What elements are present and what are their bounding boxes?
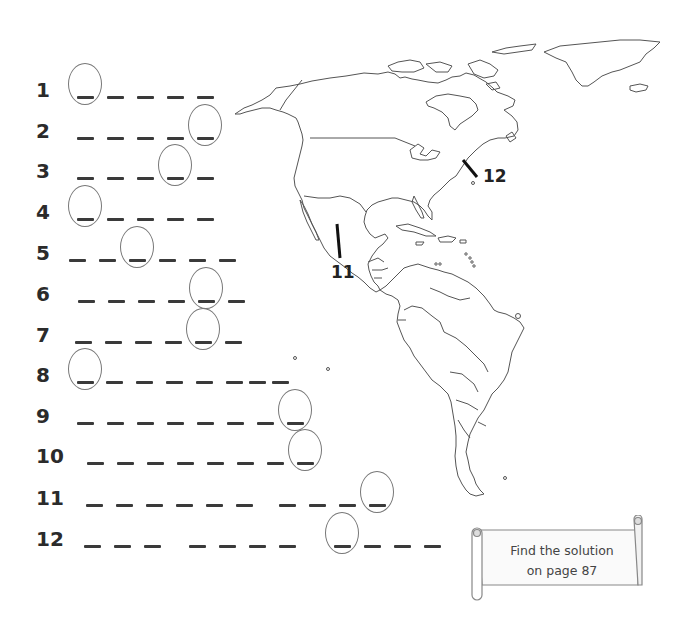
island-dot bbox=[516, 314, 521, 319]
map-label-12: 12 bbox=[483, 166, 507, 186]
letter-blank[interactable] bbox=[267, 462, 284, 465]
letter-blank[interactable] bbox=[137, 218, 154, 221]
letter-blank[interactable] bbox=[339, 504, 356, 507]
letter-blank[interactable] bbox=[177, 462, 194, 465]
highlight-circle bbox=[325, 512, 359, 554]
letter-blank[interactable] bbox=[226, 381, 243, 384]
letter-blank[interactable] bbox=[197, 422, 214, 425]
letter-blank[interactable] bbox=[75, 341, 92, 344]
solution-line-1: Find the solution bbox=[482, 541, 642, 561]
letter-blank[interactable] bbox=[309, 504, 326, 507]
letter-blank[interactable] bbox=[138, 300, 155, 303]
letter-blank[interactable] bbox=[225, 341, 242, 344]
letter-blank[interactable] bbox=[176, 504, 193, 507]
letter-blank[interactable] bbox=[136, 381, 153, 384]
letter-blank[interactable] bbox=[189, 259, 206, 262]
great-lakes bbox=[410, 144, 440, 160]
letter-blank[interactable] bbox=[99, 259, 116, 262]
letter-blank[interactable] bbox=[257, 422, 274, 425]
letter-blank[interactable] bbox=[77, 137, 94, 140]
island-dot bbox=[469, 257, 471, 259]
row-number: 1 bbox=[36, 80, 50, 100]
letter-blank[interactable] bbox=[167, 137, 184, 140]
letter-blank[interactable] bbox=[272, 381, 289, 384]
letter-blank[interactable] bbox=[219, 259, 236, 262]
letter-blank[interactable] bbox=[107, 96, 124, 99]
letter-blank[interactable] bbox=[237, 462, 254, 465]
letter-blank[interactable] bbox=[107, 137, 124, 140]
pointer-line-11 bbox=[337, 224, 340, 258]
letter-blank[interactable] bbox=[227, 422, 244, 425]
letter-blank[interactable] bbox=[84, 545, 101, 548]
letter-blank[interactable] bbox=[147, 462, 164, 465]
letter-blank[interactable] bbox=[77, 422, 94, 425]
letter-blank[interactable] bbox=[424, 545, 441, 548]
letter-blank[interactable] bbox=[228, 300, 245, 303]
highlight-circle bbox=[68, 348, 102, 390]
letter-blank[interactable] bbox=[167, 96, 184, 99]
island-dot bbox=[294, 357, 297, 360]
letter-blank[interactable] bbox=[219, 545, 236, 548]
row-number: 2 bbox=[36, 121, 50, 141]
letter-blank[interactable] bbox=[146, 504, 163, 507]
row-number: 10 bbox=[36, 446, 64, 466]
row-number: 12 bbox=[36, 529, 64, 549]
row-number: 11 bbox=[36, 488, 64, 508]
letter-blank[interactable] bbox=[167, 422, 184, 425]
cuba-outline bbox=[396, 224, 436, 236]
letter-blank[interactable] bbox=[249, 545, 266, 548]
letter-blank[interactable] bbox=[69, 259, 86, 262]
letter-blank[interactable] bbox=[197, 218, 214, 221]
letter-blank[interactable] bbox=[86, 504, 103, 507]
letter-blank[interactable] bbox=[189, 545, 206, 548]
letter-blank[interactable] bbox=[116, 504, 133, 507]
letter-blank[interactable] bbox=[137, 96, 154, 99]
letter-blank[interactable] bbox=[137, 137, 154, 140]
letter-blank[interactable] bbox=[167, 218, 184, 221]
greenland-outline bbox=[544, 40, 660, 86]
highlight-circle bbox=[158, 144, 192, 186]
letter-blank[interactable] bbox=[107, 177, 124, 180]
jamaica-outline bbox=[416, 242, 424, 245]
letter-blank[interactable] bbox=[137, 177, 154, 180]
island-dot bbox=[327, 368, 330, 371]
highlight-circle bbox=[188, 104, 222, 146]
letter-blank[interactable] bbox=[364, 545, 381, 548]
letter-blank[interactable] bbox=[394, 545, 411, 548]
letter-blank[interactable] bbox=[165, 341, 182, 344]
letter-blank[interactable] bbox=[159, 259, 176, 262]
letter-blank[interactable] bbox=[106, 381, 123, 384]
letter-blank[interactable] bbox=[249, 381, 266, 384]
letter-blank[interactable] bbox=[77, 177, 94, 180]
south-america-outline bbox=[380, 264, 524, 496]
letter-blank[interactable] bbox=[114, 545, 131, 548]
letter-blank[interactable] bbox=[236, 504, 253, 507]
island-dot bbox=[439, 263, 441, 265]
letter-blank[interactable] bbox=[207, 462, 224, 465]
row-number: 4 bbox=[36, 202, 50, 222]
highlight-circle bbox=[360, 471, 394, 513]
letter-blank[interactable] bbox=[197, 177, 214, 180]
letter-blank[interactable] bbox=[279, 545, 296, 548]
letter-blank[interactable] bbox=[206, 504, 223, 507]
letter-blank[interactable] bbox=[144, 545, 161, 548]
letter-blank[interactable] bbox=[196, 381, 213, 384]
letter-blank[interactable] bbox=[166, 381, 183, 384]
letter-blank[interactable] bbox=[168, 300, 185, 303]
letter-blank[interactable] bbox=[137, 422, 154, 425]
island-dot bbox=[472, 182, 475, 185]
letter-blank[interactable] bbox=[107, 218, 124, 221]
letter-blank[interactable] bbox=[105, 341, 122, 344]
letter-blank[interactable] bbox=[197, 96, 214, 99]
alaska-canada-border bbox=[280, 80, 302, 110]
letter-blank[interactable] bbox=[117, 462, 134, 465]
letter-blank[interactable] bbox=[78, 300, 95, 303]
letter-blank[interactable] bbox=[135, 341, 152, 344]
island-dot bbox=[471, 261, 473, 263]
letter-blank[interactable] bbox=[108, 300, 125, 303]
letter-blank[interactable] bbox=[87, 462, 104, 465]
row-number: 5 bbox=[36, 243, 50, 263]
letter-blank[interactable] bbox=[279, 504, 296, 507]
letter-blank[interactable] bbox=[107, 422, 124, 425]
island-dot bbox=[504, 477, 507, 480]
